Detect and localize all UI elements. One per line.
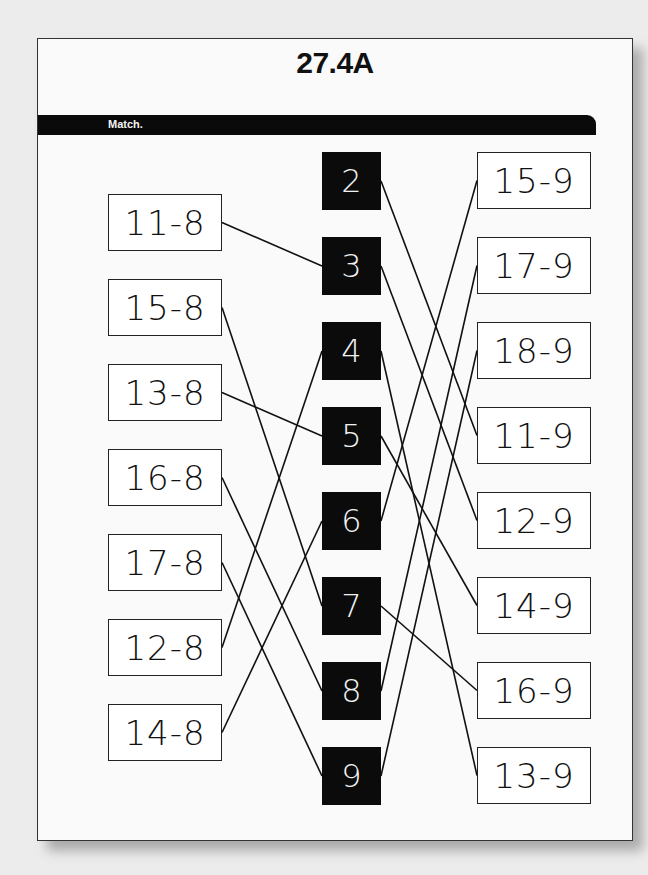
right-expression-box[interactable]: 13-9 (477, 747, 591, 804)
left-expression-box[interactable]: 16-8 (108, 449, 222, 506)
right-expression-box[interactable]: 14-9 (477, 577, 591, 634)
right-expression-box[interactable]: 17-9 (477, 237, 591, 294)
left-expression-box[interactable]: 15-8 (108, 279, 222, 336)
right-expression-box[interactable]: 16-9 (477, 662, 591, 719)
answer-box[interactable]: 2 (322, 152, 381, 210)
answer-box[interactable]: 6 (322, 492, 381, 550)
instruction-bar: Match. (38, 115, 596, 135)
answer-box[interactable]: 7 (322, 577, 381, 635)
answer-box[interactable]: 3 (322, 237, 381, 295)
answer-box[interactable]: 4 (322, 322, 381, 380)
answer-box[interactable]: 5 (322, 407, 381, 465)
instruction-label: Match. (108, 118, 143, 130)
right-expression-box[interactable]: 18-9 (477, 322, 591, 379)
right-expression-box[interactable]: 15-9 (477, 152, 591, 209)
right-expression-box[interactable]: 12-9 (477, 492, 591, 549)
right-expression-box[interactable]: 11-9 (477, 407, 591, 464)
answer-box[interactable]: 9 (322, 747, 381, 805)
answer-box[interactable]: 8 (322, 662, 381, 720)
left-expression-box[interactable]: 17-8 (108, 534, 222, 591)
left-expression-box[interactable]: 13-8 (108, 364, 222, 421)
left-expression-box[interactable]: 14-8 (108, 704, 222, 761)
left-expression-box[interactable]: 11-8 (108, 194, 222, 251)
worksheet-title: 27.4A (38, 46, 632, 80)
left-expression-box[interactable]: 12-8 (108, 619, 222, 676)
